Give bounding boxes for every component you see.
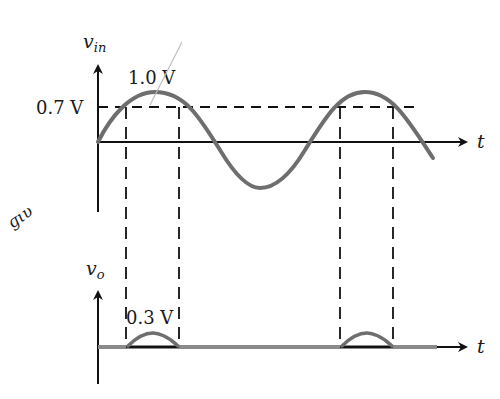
handwritten-annotation: ɡιυ	[4, 201, 37, 232]
waveform-figure: vin 1.0 V 0.7 V t vo 0.3 V t ɡιυ	[0, 0, 500, 399]
vin-label: vin	[83, 30, 106, 55]
top-plot: vin 1.0 V 0.7 V t	[36, 30, 485, 212]
vo-pulse-2	[342, 333, 392, 346]
threshold-label: 0.7 V	[36, 97, 84, 118]
peak-label: 1.0 V	[128, 67, 176, 88]
clipper-waveform-diagram: vin 1.0 V 0.7 V t vo 0.3 V t ɡιυ	[0, 0, 500, 399]
vo-pulse-1	[128, 333, 178, 346]
bottom-plot: vo 0.3 V t	[86, 257, 485, 384]
vin-t-label: t	[477, 130, 485, 152]
vin-waveform	[98, 92, 433, 188]
pulse-label: 0.3 V	[126, 307, 174, 328]
vo-label: vo	[86, 257, 105, 282]
vo-t-label: t	[477, 335, 485, 357]
